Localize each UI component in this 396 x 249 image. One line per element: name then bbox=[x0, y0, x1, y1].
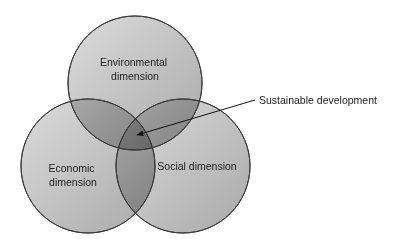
social-label: Social dimension bbox=[157, 160, 237, 172]
venn-diagram: Environmental dimension Economic dimensi… bbox=[0, 0, 396, 249]
sustainable-development-label: Sustainable development bbox=[259, 94, 377, 106]
